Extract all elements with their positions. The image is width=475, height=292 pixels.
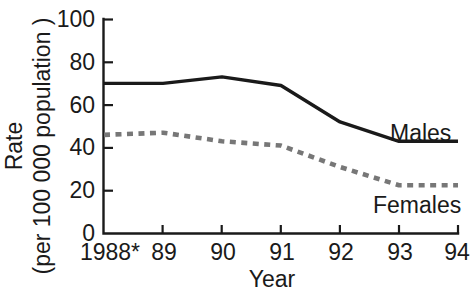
x-axis-title: Year: [249, 266, 296, 292]
x-tick-label-93: 93: [387, 239, 413, 265]
series-label-females: Females: [373, 192, 461, 218]
y-tick-marks: [104, 20, 114, 191]
line-chart: Rate (per 100 000 population ) 100 80 60…: [0, 0, 475, 292]
series-label-males: Males: [390, 120, 451, 146]
x-tick-label-1988: 1988*: [80, 239, 140, 265]
y-tick-label-100: 100: [57, 6, 95, 32]
y-tick-label-20: 20: [69, 177, 95, 203]
x-tick-marks: [163, 225, 458, 234]
y-tick-label-80: 80: [69, 49, 95, 75]
y-tick-label-60: 60: [69, 92, 95, 118]
y-axis-title: Rate (per 100 000 population ): [1, 17, 55, 274]
y-axis-title-line1: Rate: [1, 122, 27, 171]
y-tick-labels: 100 80 60 40 20 0: [57, 6, 95, 246]
y-axis-title-line2: (per 100 000 population ): [29, 17, 55, 274]
x-tick-labels: 1988* 89 90 91 92 93 94: [80, 239, 470, 265]
y-tick-label-40: 40: [69, 134, 95, 160]
x-tick-label-92: 92: [328, 239, 354, 265]
x-tick-label-94: 94: [444, 239, 470, 265]
x-tick-label-91: 91: [269, 239, 295, 265]
x-tick-label-90: 90: [210, 239, 236, 265]
chart-canvas: Rate (per 100 000 population ) 100 80 60…: [0, 0, 475, 292]
x-tick-label-89: 89: [151, 239, 177, 265]
